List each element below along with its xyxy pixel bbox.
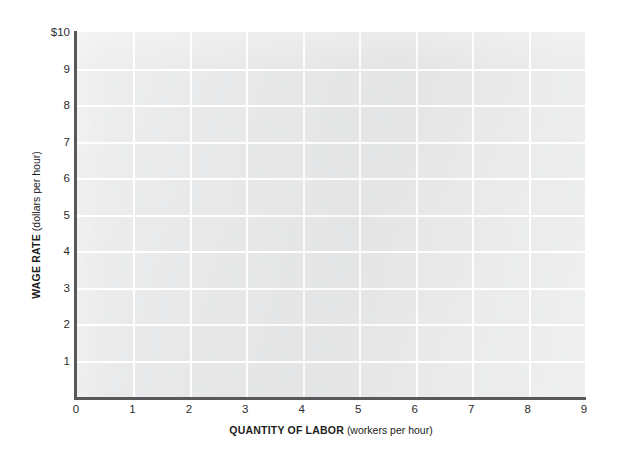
x-tick-label: 5: [343, 402, 373, 416]
x-axis-title: QUANTITY OF LABOR (workers per hour): [77, 424, 585, 436]
gridline-vertical: [246, 32, 248, 397]
x-axis-line: [74, 397, 586, 400]
gridline-vertical: [416, 32, 418, 397]
y-axis-line: [74, 31, 77, 400]
gridline-vertical: [472, 32, 474, 397]
gridline-horizontal: [77, 105, 585, 107]
y-axis-title: WAGE RATE (dollars per hour): [28, 140, 44, 310]
y-tick-label: 8: [8, 99, 70, 111]
x-axis-title-main: QUANTITY OF LABOR: [229, 424, 344, 436]
gridline-vertical: [529, 32, 531, 397]
gridline-vertical: [359, 32, 361, 397]
gridline-vertical: [303, 32, 305, 397]
y-tick-label: $10: [8, 26, 70, 38]
x-tick-label: 0: [61, 402, 91, 416]
gridline-horizontal: [77, 178, 585, 180]
gridline-horizontal: [77, 288, 585, 290]
y-tick-label: 1: [8, 355, 70, 367]
x-tick-label: 7: [456, 402, 486, 416]
gridline-vertical: [190, 32, 192, 397]
blank-graph-figure: $10 9 8 7 6 5 4 3 2 1 0 1 2 3 4 5 6 7 8 …: [0, 0, 622, 457]
gridline-vertical: [133, 32, 135, 397]
gridline-horizontal: [77, 69, 585, 71]
gridline-horizontal: [77, 215, 585, 217]
gridline-horizontal: [77, 251, 585, 253]
y-tick-label: 9: [8, 63, 70, 75]
x-tick-label: 1: [117, 402, 147, 416]
x-tick-label: 6: [400, 402, 430, 416]
gridline-horizontal: [77, 361, 585, 363]
x-tick-label: 2: [174, 402, 204, 416]
x-axis-title-units: (workers per hour): [347, 424, 433, 436]
gridline-horizontal: [77, 324, 585, 326]
plot-area: [77, 32, 585, 397]
x-tick-label: 3: [230, 402, 260, 416]
x-tick-label: 4: [287, 402, 317, 416]
y-axis-title-main: WAGE RATE: [30, 234, 42, 299]
y-tick-label: 2: [8, 318, 70, 330]
x-tick-label: 9: [569, 402, 599, 416]
x-tick-label: 8: [513, 402, 543, 416]
gridline-horizontal: [77, 142, 585, 144]
y-axis-title-units: (dollars per hour): [30, 151, 42, 231]
